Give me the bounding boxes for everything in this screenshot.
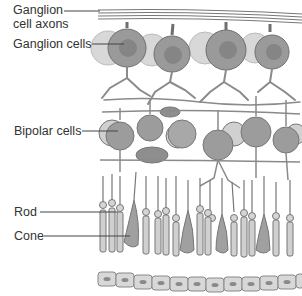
label-ganglion-cells: Ganglion cells [13,37,92,51]
label-line-2: cell axons [13,17,69,31]
label-bipolar-cells: Bipolar cells [14,124,81,138]
bipolar-cells [99,96,302,188]
label-cone: Cone [14,229,44,243]
photoreceptors [100,172,294,257]
ganglion-cell-axons [98,10,302,24]
inner-plexiform-branches [102,67,300,105]
label-line-1: Ganglion [13,3,69,17]
pigment-epithelium [98,272,302,292]
label-rod: Rod [14,205,37,219]
label-ganglion-cell-axons: Ganglion cell axons [13,3,69,31]
